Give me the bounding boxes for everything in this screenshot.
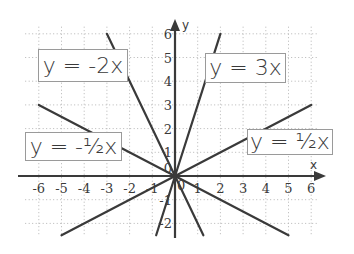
label-y-neg-half-x: y = -½x xyxy=(25,132,122,161)
label-text: y = ½x xyxy=(250,131,330,153)
x-tick-label: 4 xyxy=(262,181,270,196)
x-axis-arrow-icon xyxy=(314,171,326,181)
x-tick-label: 5 xyxy=(284,181,292,196)
label-y-3x: y = 3x xyxy=(205,53,286,83)
y-tick-label: 2 xyxy=(164,122,172,137)
y-axis-label: y xyxy=(182,18,189,32)
x-tick-label: -1 xyxy=(146,181,159,196)
y-tick-label: -2 xyxy=(159,216,172,231)
label-y-half-x: y = ½x xyxy=(247,129,333,155)
x-axis-label: x xyxy=(310,158,317,172)
x-tick-label: -4 xyxy=(78,181,91,196)
x-tick-label: -3 xyxy=(101,181,114,196)
y-tick-label: 6 xyxy=(164,27,172,42)
x-tick-label: 6 xyxy=(307,181,315,196)
x-tick-label: -6 xyxy=(32,181,45,196)
x-tick-label: -5 xyxy=(55,181,68,196)
x-tick-label: -2 xyxy=(123,181,136,196)
series-line xyxy=(62,105,312,235)
y-tick-label: 3 xyxy=(164,98,172,113)
y-tick-label: 4 xyxy=(164,74,172,89)
origin-label: 0 xyxy=(164,161,172,176)
coordinate-plane: xy -6-5-4-3-2-1123456-2-112345600 xyxy=(0,0,354,254)
label-text: y = -½x xyxy=(30,136,118,158)
y-tick-label: -1 xyxy=(159,193,172,208)
y-tick-label: 1 xyxy=(164,145,172,160)
label-y-neg2x: y = -2x xyxy=(38,49,128,82)
x-tick-label: 3 xyxy=(239,181,247,196)
x-tick-label: 1 xyxy=(194,181,202,196)
y-tick-label: 5 xyxy=(164,51,172,66)
label-text: y = 3x xyxy=(209,57,281,79)
label-text: y = -2x xyxy=(43,55,123,77)
x-tick-label: 2 xyxy=(216,181,224,196)
origin-label: 0 xyxy=(177,178,185,193)
